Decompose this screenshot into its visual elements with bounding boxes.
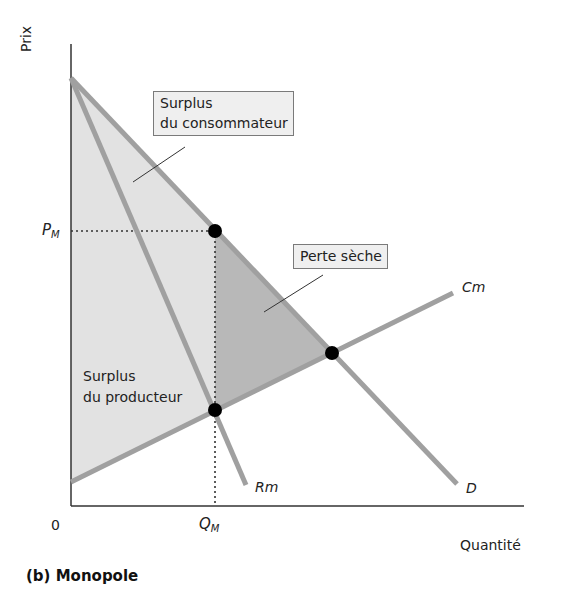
qm-tick-label: QM — [199, 516, 219, 537]
cm-curve-label: Cm — [462, 279, 485, 296]
rm-curve-label: Rm — [255, 479, 278, 496]
pm-tick-label: PM — [42, 222, 60, 243]
competitive-equilibrium-dot — [325, 346, 339, 360]
origin-label: 0 — [51, 517, 60, 534]
x-axis-label: Quantité — [460, 537, 521, 554]
chart-title: (b) Monopole — [26, 567, 138, 585]
consumer-surplus-label: Surplus du consommateur — [153, 91, 294, 136]
deadweight-loss-label: Perte sèche — [293, 244, 388, 269]
d-curve-label: D — [466, 480, 477, 497]
mc-at-qm-dot — [208, 403, 222, 417]
y-axis-label: Prix — [18, 26, 34, 52]
monopoly-price-dot — [208, 224, 222, 238]
producer-surplus-label: Surplus du producteur — [83, 366, 182, 408]
